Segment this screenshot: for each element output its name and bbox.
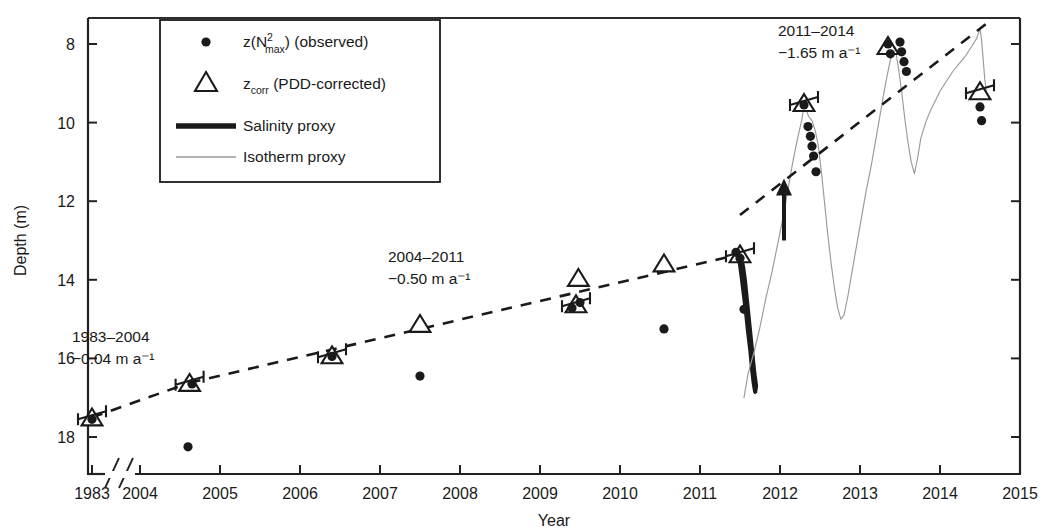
observed-dot-marker xyxy=(575,298,584,307)
axis-break-marker xyxy=(88,458,1020,488)
isotherm-proxy-curve xyxy=(744,28,986,397)
observed-dot-marker xyxy=(183,442,192,451)
zcorr-triangle-marker xyxy=(410,315,431,332)
salinity-proxy-curve xyxy=(738,252,756,391)
x-axis: 1983200420052006200720082009201020112012… xyxy=(74,465,1038,502)
observed-dot-marker xyxy=(807,142,816,151)
figure-container: 81012141618Depth (m)19832004200520062007… xyxy=(0,0,1048,531)
x-tick-label: 2013 xyxy=(842,485,878,502)
observed-dot-marker xyxy=(886,49,895,58)
x-tick-label: 2008 xyxy=(442,485,478,502)
annotation-period: 2004–2011 xyxy=(388,248,464,265)
observed-dot-marker xyxy=(902,67,911,76)
x-tick-label: 2006 xyxy=(282,485,318,502)
observed-dot-marker xyxy=(659,324,668,333)
legend-label-isotherm: Isotherm proxy xyxy=(243,148,346,165)
chart-canvas: 81012141618Depth (m)19832004200520062007… xyxy=(0,0,1048,531)
observed-dot-marker xyxy=(811,167,820,176)
trend-2004-2011-label: 2004–2011−0.50 m a⁻¹ xyxy=(388,248,471,287)
x-tick-label: 2004 xyxy=(122,485,158,502)
observed-dot-marker xyxy=(977,116,986,125)
x-tick-label: 2015 xyxy=(1002,485,1038,502)
observed-dot-marker xyxy=(975,102,984,111)
legend: z(N2max) (observed)zcorr (PDD-corrected)… xyxy=(160,20,440,182)
legend-dot-icon xyxy=(201,37,210,46)
x-tick-label: 2014 xyxy=(922,485,958,502)
observed-dot-marker xyxy=(883,39,892,48)
x-axis-title: Year xyxy=(538,512,571,529)
observed-dot-marker xyxy=(895,37,904,46)
observed-dot-marker xyxy=(187,379,196,388)
zcorr-triangle-marker xyxy=(568,269,589,286)
y-tick-label: 18 xyxy=(57,429,75,446)
y-tick-label: 14 xyxy=(57,272,75,289)
observed-dot-marker xyxy=(897,47,906,56)
trend-2011-2014-label: 2011–2014−1.65 m a⁻¹ xyxy=(778,22,861,61)
x-tick-label: 2005 xyxy=(202,485,238,502)
observed-dot-marker xyxy=(87,415,96,424)
annotation-period: 2011–2014 xyxy=(778,22,855,39)
legend-label-salinity: Salinity proxy xyxy=(243,117,335,134)
y-tick-label: 10 xyxy=(57,115,75,132)
trend-1983-2004-label: 1983–2004−0.04 m a⁻¹ xyxy=(72,328,155,367)
observed-dot-marker xyxy=(739,305,748,314)
observed-dot-marker xyxy=(899,57,908,66)
observed-dot-marker xyxy=(735,254,744,263)
x-tick-label: 2010 xyxy=(602,485,638,502)
y-tick-label: 12 xyxy=(57,193,75,210)
observed-dot-marker xyxy=(327,352,336,361)
x-tick-label: 2009 xyxy=(522,485,558,502)
observed-dot-marker xyxy=(809,151,818,160)
annotation-rate: −0.04 m a⁻¹ xyxy=(72,350,155,367)
annotation-rate: −1.65 m a⁻¹ xyxy=(778,44,861,61)
zcorr-triangle-marker xyxy=(654,254,675,271)
x-tick-label: 2011 xyxy=(683,485,718,502)
observed-dot-marker xyxy=(803,122,812,131)
observed-dot-marker xyxy=(799,100,808,109)
observed-dot-marker xyxy=(567,303,576,312)
y-axis-title: Depth (m) xyxy=(12,205,29,276)
annotation-period: 1983–2004 xyxy=(72,328,150,345)
event-arrow-annotation xyxy=(776,178,792,240)
x-tick-label: 2007 xyxy=(362,485,398,502)
y-tick-label: 8 xyxy=(66,36,75,53)
observed-dot-marker xyxy=(415,371,424,380)
observed-dot-marker xyxy=(806,132,815,141)
annotation-rate: −0.50 m a⁻¹ xyxy=(388,270,471,287)
x-tick-label: 2012 xyxy=(762,485,798,502)
